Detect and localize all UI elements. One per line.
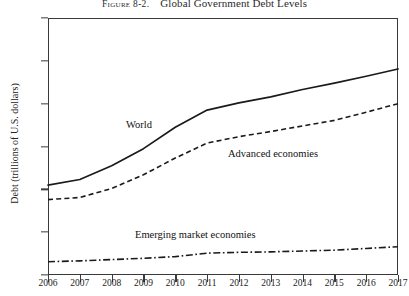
series-line-world [48,69,398,185]
series-annotation-advanced-economies: Advanced economies [228,148,318,159]
series-annotation-world: World [126,119,152,130]
x-axis-tick-label: 2017 [378,278,409,288]
series-annotation-emerging-market-economies: Emerging market economies [135,229,256,240]
series-lines [0,0,409,296]
series-line-advanced-economies [48,104,398,200]
series-line-emerging-market-economies [48,247,398,262]
figure-container: Figure 8-2. Global Government Debt Level… [0,0,409,296]
